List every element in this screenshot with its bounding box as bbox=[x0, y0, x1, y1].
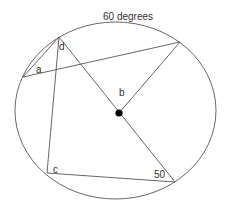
label-60-degrees: 60 degrees bbox=[103, 11, 153, 22]
label-50: 50 bbox=[154, 169, 166, 180]
diameter-d-to-bottom-right bbox=[59, 37, 175, 182]
chord-a-to-right bbox=[23, 42, 180, 77]
chord-d-to-c bbox=[47, 37, 59, 173]
label-c: c bbox=[53, 164, 58, 175]
label-b: b bbox=[119, 87, 125, 98]
geometry-diagram: 60 degrees d a b c 50 bbox=[0, 0, 225, 211]
label-a: a bbox=[36, 64, 42, 75]
label-d: d bbox=[59, 41, 65, 52]
circle bbox=[15, 22, 216, 199]
center-dot bbox=[115, 109, 122, 116]
radius-center-to-right bbox=[119, 42, 180, 113]
